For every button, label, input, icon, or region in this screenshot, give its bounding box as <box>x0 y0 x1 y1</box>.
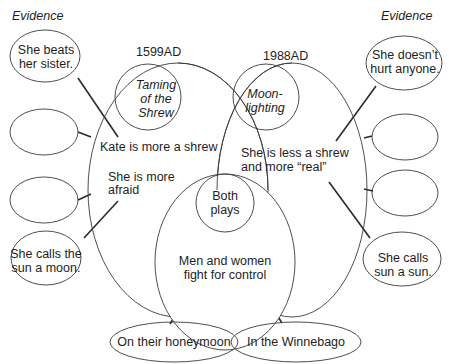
right-evidence-header: Evidence <box>381 9 432 23</box>
left-point-1: Kate is more a shrew <box>100 140 218 154</box>
left-year: 1599AD <box>136 45 181 59</box>
connector-right-evidence-1 <box>336 86 376 141</box>
right-evidence-1-line-2: hurt anyone. <box>370 62 440 76</box>
left-evidence-header: Evidence <box>12 9 63 23</box>
right-evidence-bubble-3 <box>372 170 438 216</box>
shared-label-line-1: Both <box>212 189 238 203</box>
right-evidence-4-line-2: sun a sun. <box>374 265 432 279</box>
connector-right-evidence-2 <box>364 136 372 138</box>
shared-evidence-1: On their honeymoon <box>117 335 230 349</box>
connector-left-evidence-3 <box>78 194 91 200</box>
left-evidence-1-line-2: her sister. <box>19 57 73 71</box>
connector-right-evidence-3 <box>364 189 373 191</box>
right-title-line-1: Moon- <box>247 87 282 101</box>
shared-point-line-2: fight for control <box>184 268 267 282</box>
connector-right-evidence-4 <box>329 182 370 238</box>
left-evidence-4-line-2: sun a moon. <box>12 261 81 275</box>
right-year: 1988AD <box>263 49 308 63</box>
left-evidence-bubble-2 <box>10 109 78 155</box>
right-evidence-1-line-1: She doesn’t <box>372 48 439 62</box>
shared-label-line-2: plays <box>210 203 239 217</box>
left-evidence-bubble-3 <box>10 177 78 223</box>
right-point-1-line-1: She is less a shrew <box>241 146 350 160</box>
left-evidence-1-line-1: She beats <box>18 43 74 57</box>
left-title-line-3: Shrew <box>138 106 174 120</box>
right-evidence-4-line-1: She calls <box>378 251 429 265</box>
connector-left-evidence-2 <box>78 132 91 137</box>
left-title-line-2: of the <box>140 92 171 106</box>
venn-diagram: Evidence Evidence 1599AD 1988AD Taming o… <box>0 0 449 364</box>
shared-point-line-1: Men and women <box>179 254 271 268</box>
left-point-2-line-2: afraid <box>108 183 139 197</box>
left-evidence-4-line-1: She calls the <box>10 247 82 261</box>
left-title-line-1: Taming <box>136 78 177 92</box>
right-title-line-2: lighting <box>245 101 285 115</box>
connector-left-evidence-1 <box>78 78 118 137</box>
right-point-1-line-2: and more “real” <box>241 160 326 174</box>
shared-evidence-2: In the Winnebago <box>247 335 345 349</box>
right-evidence-bubble-2 <box>372 114 438 160</box>
left-point-2-line-1: She is more <box>108 170 175 184</box>
